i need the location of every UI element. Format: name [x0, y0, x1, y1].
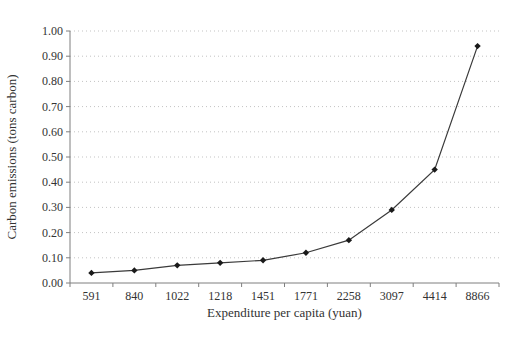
data-point-marker: [474, 43, 480, 49]
data-point-marker: [174, 262, 180, 268]
x-tick-label: 3097: [380, 289, 404, 303]
y-axis-title: Carbon emissions (tons carbon): [4, 31, 20, 283]
data-point-marker: [260, 257, 266, 263]
data-point-marker: [88, 270, 94, 276]
y-tick-label: 0.70: [42, 100, 63, 114]
y-tick-label: 0.30: [42, 200, 63, 214]
y-tick-label: 0.60: [42, 125, 63, 139]
y-tick-label: 1.00: [42, 24, 63, 38]
x-tick-label: 1451: [251, 289, 275, 303]
x-axis-title: Expenditure per capita (yuan): [70, 305, 499, 321]
y-tick-label: 0.10: [42, 251, 63, 265]
x-tick-label: 591: [82, 289, 100, 303]
data-point-marker: [303, 250, 309, 256]
data-point-marker: [217, 260, 223, 266]
y-tick-label: 0.90: [42, 49, 63, 63]
plot-area: 0.000.100.200.300.400.500.600.700.800.90…: [0, 0, 518, 342]
y-tick-label: 0.40: [42, 175, 63, 189]
x-tick-label: 8866: [466, 289, 490, 303]
series-line: [91, 46, 477, 273]
x-tick-label: 1771: [294, 289, 318, 303]
y-tick-label: 0.00: [42, 276, 63, 290]
data-point-marker: [131, 267, 137, 273]
y-tick-label: 0.80: [42, 74, 63, 88]
x-tick-label: 2258: [337, 289, 361, 303]
x-tick-label: 1218: [208, 289, 232, 303]
x-tick-label: 1022: [165, 289, 189, 303]
x-tick-label: 4414: [423, 289, 447, 303]
y-tick-label: 0.20: [42, 226, 63, 240]
carbon-emissions-chart: 0.000.100.200.300.400.500.600.700.800.90…: [0, 0, 518, 342]
y-tick-label: 0.50: [42, 150, 63, 164]
x-tick-label: 840: [125, 289, 143, 303]
